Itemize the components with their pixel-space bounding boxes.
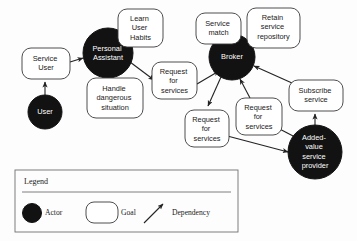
actor-user-label: User (37, 107, 53, 116)
legend-item-goal: Goal (86, 202, 136, 223)
legend-frame (15, 170, 238, 232)
legend-actor-icon (23, 204, 42, 223)
actor-broker-label: Broker (221, 52, 243, 61)
goal-request-for-services-3[interactable]: Request for services (236, 98, 282, 135)
dependency-personal-assistant-to-request-for-services-1 (130, 62, 154, 80)
goal-service-user[interactable]: Service User (22, 48, 70, 79)
goal-request-for-services-2[interactable]: Request for services (185, 110, 229, 147)
goal-learn-user-habits-label: Learn User Habits (130, 14, 151, 42)
goal-retain-service-repository[interactable]: Retain service repository (247, 8, 300, 48)
legend-title: Legend (24, 177, 48, 186)
legend-goal-icon (86, 202, 118, 223)
goal-service-match-label: Service match (205, 19, 232, 37)
actor-added-value-service-provider[interactable]: Added- value service provider (288, 125, 342, 179)
legend: Legend Actor Goal Dependency (15, 170, 238, 232)
goal-service-match[interactable]: Service match (196, 13, 241, 44)
legend-dependency-label: Dependency (172, 208, 210, 217)
actor-user[interactable]: User (28, 95, 62, 129)
legend-dependency-icon (144, 204, 163, 223)
dependency-subscribe-service-to-broker (254, 66, 292, 83)
goal-dependency-diagram: User Personal Assistant Broker Added- va… (0, 0, 357, 241)
legend-actor-label: Actor (45, 208, 63, 217)
legend-item-dependency: Dependency (144, 204, 210, 223)
actor-personal-assistant-label: Personal Assistant (92, 44, 123, 62)
dependency-broker-to-request-for-services-2 (208, 77, 221, 106)
goal-subscribe-service[interactable]: Subscribe service (289, 80, 343, 111)
legend-goal-label: Goal (121, 208, 136, 217)
goal-retain-service-repository-label: Retain service repository (257, 13, 290, 41)
goal-request-for-services-1[interactable]: Request for services (152, 62, 197, 99)
actor-added-value-service-provider-label: Added- value service provider (302, 133, 329, 170)
goal-handle-dangerous-situation[interactable]: Handle dangerous situation (87, 78, 143, 118)
dependency-request-for-services-3-to-broker (240, 79, 250, 98)
dependency-service-user-to-personal-assistant (70, 58, 83, 62)
diagram-canvas-root: User Personal Assistant Broker Added- va… (0, 0, 357, 241)
legend-item-actor: Actor (23, 204, 63, 223)
goal-learn-user-habits[interactable]: Learn User Habits (118, 9, 163, 47)
